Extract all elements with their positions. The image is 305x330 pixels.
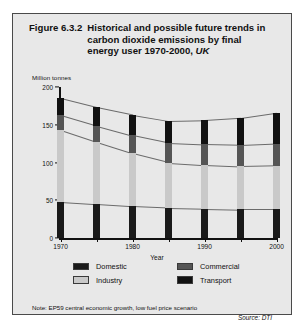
bar-segment-commercial — [165, 143, 172, 163]
chart-bar — [201, 120, 208, 238]
bar-segment-domestic — [129, 206, 136, 238]
x-axis-label: Year — [31, 254, 283, 261]
bar-segment-commercial — [237, 145, 244, 166]
legend-swatch-industry — [73, 276, 89, 284]
legend-row-1: Domestic Commercial — [31, 262, 283, 271]
legend-swatch-domestic — [73, 263, 89, 271]
x-tick-mark — [169, 238, 170, 242]
bar-segment-commercial — [57, 115, 64, 130]
bar-segment-transport — [165, 121, 172, 143]
y-tick-label: 150 — [33, 121, 53, 128]
figure-title: Historical and possible future trends in… — [87, 22, 265, 57]
x-tick-mark — [97, 238, 98, 242]
bar-segment-transport — [93, 107, 100, 125]
chart-legend: Domestic Commercial Industry Transport — [31, 262, 283, 289]
series-boundary-line — [241, 166, 277, 168]
title-line-3: energy user 1970-2000, — [87, 45, 193, 56]
bar-segment-industry — [57, 130, 64, 202]
title-region: UK — [196, 45, 210, 56]
figure-title-block: Figure 6.3.2 Historical and possible fut… — [29, 22, 281, 57]
bar-segment-transport — [201, 120, 208, 144]
series-boundary-line — [133, 135, 169, 143]
legend-swatch-commercial — [177, 263, 193, 271]
bar-segment-domestic — [201, 209, 208, 238]
legend-item-commercial: Commercial — [157, 262, 283, 271]
series-boundary-line — [205, 209, 241, 211]
bar-segment-domestic — [93, 204, 100, 238]
chart-series-area — [61, 87, 277, 238]
x-tick-label: 2000 — [269, 243, 284, 250]
x-tick-mark — [133, 238, 134, 242]
legend-label-domestic: Domestic — [96, 262, 127, 271]
bar-segment-domestic — [165, 208, 172, 238]
bar-segment-industry — [201, 165, 208, 209]
series-boundary-line — [60, 98, 96, 108]
series-boundary-line — [133, 206, 169, 208]
chart-bar — [165, 121, 172, 238]
series-boundary-line — [96, 126, 132, 137]
series-boundary-line — [205, 118, 241, 121]
bar-segment-industry — [273, 166, 280, 210]
y-axis-ticks: 050100150200 — [31, 82, 59, 248]
figure-panel: Figure 6.3.2 Historical and possible fut… — [12, 13, 292, 315]
chart-bar — [93, 107, 100, 238]
bar-segment-industry — [165, 163, 172, 208]
y-tick-label: 100 — [33, 159, 53, 166]
legend-item-transport: Transport — [157, 276, 283, 285]
x-tick-label: 1990 — [197, 243, 212, 250]
x-tick-mark — [241, 238, 242, 242]
series-boundary-line — [169, 163, 205, 166]
bar-segment-commercial — [201, 144, 208, 164]
bar-segment-transport — [273, 113, 280, 144]
series-boundary-line — [60, 115, 96, 126]
legend-item-industry: Industry — [31, 276, 157, 285]
series-boundary-line — [97, 204, 133, 207]
y-axis-label: Million tonnes — [32, 74, 71, 81]
series-boundary-line — [133, 115, 169, 122]
bar-segment-domestic — [237, 209, 244, 238]
y-tick-label: 200 — [33, 84, 53, 91]
figure-note: Note: EP59 central economic growth, low … — [32, 304, 197, 311]
y-tick-mark — [55, 86, 59, 87]
series-boundary-line — [132, 153, 168, 163]
bar-segment-industry — [237, 166, 244, 209]
bar-segment-commercial — [273, 144, 280, 166]
bar-segment-industry — [93, 142, 100, 204]
chart-bar — [273, 113, 280, 238]
series-boundary-line — [60, 130, 96, 143]
series-boundary-line — [96, 142, 132, 154]
series-boundary-line — [97, 107, 133, 115]
legend-label-commercial: Commercial — [200, 262, 239, 271]
legend-row-2: Industry Transport — [31, 276, 283, 285]
title-line-2: carbon dioxide emissions by final — [87, 34, 241, 45]
x-tick-label: 1970 — [53, 243, 68, 250]
bar-segment-domestic — [273, 209, 280, 238]
legend-swatch-transport — [177, 276, 193, 284]
y-tick-label: 50 — [33, 197, 53, 204]
x-tick-mark — [205, 238, 206, 242]
title-line-1: Historical and possible future trends in — [87, 22, 265, 33]
series-boundary-line — [205, 144, 241, 146]
chart-bar — [237, 118, 244, 238]
x-tick-mark — [277, 238, 278, 242]
figure-number: Figure 6.3.2 — [29, 22, 87, 34]
legend-item-domestic: Domestic — [31, 262, 157, 271]
bar-segment-transport — [237, 118, 244, 145]
series-boundary-line — [205, 165, 241, 167]
bar-segment-transport — [129, 115, 136, 135]
series-boundary-line — [241, 209, 277, 210]
bar-segment-industry — [129, 153, 136, 206]
legend-label-transport: Transport — [200, 276, 231, 285]
series-boundary-line — [169, 143, 205, 145]
y-tick-label: 0 — [33, 235, 53, 242]
figure-source: Source: DTI — [238, 314, 272, 321]
bar-segment-commercial — [93, 126, 100, 143]
chart-bar — [57, 98, 64, 238]
x-tick-label: 1980 — [125, 243, 140, 250]
bar-segment-commercial — [129, 135, 136, 153]
series-boundary-line — [61, 202, 97, 205]
series-boundary-line — [241, 144, 277, 146]
legend-label-industry: Industry — [96, 276, 122, 285]
bar-segment-transport — [57, 98, 64, 115]
series-boundary-line — [169, 208, 205, 210]
